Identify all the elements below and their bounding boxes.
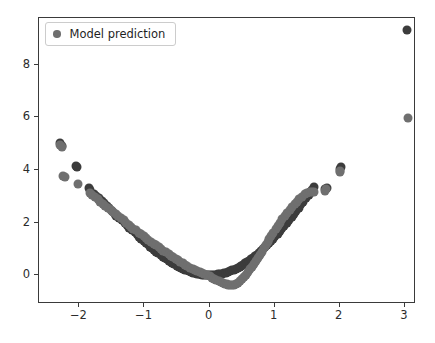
x-tick-label: −2 [70,308,87,322]
data-point [158,252,167,261]
data-point [283,209,292,218]
data-point [241,259,250,268]
data-point [154,243,163,252]
data-point [237,261,246,270]
data-point [322,185,331,194]
data-point [220,279,229,288]
data-point [300,190,309,199]
y-tick-label: 6 [23,109,30,123]
data-point [109,208,118,217]
x-tick-label: 1 [270,308,277,322]
data-point [198,269,207,278]
data-point [169,253,178,262]
data-point [171,254,180,263]
data-point [86,185,95,194]
data-point [404,113,413,122]
data-point [259,244,268,253]
data-point [115,214,124,223]
x-tick-label: 3 [400,308,407,322]
y-tick-label: 8 [23,57,30,71]
data-point [184,267,193,276]
data-point [253,253,262,262]
data-point [141,238,150,247]
data-point [130,228,139,237]
data-point [181,260,190,269]
data-point [152,247,161,256]
data-point [188,268,197,277]
data-point [249,259,258,268]
data-point [122,218,131,227]
data-point [111,210,120,219]
data-point [180,265,189,274]
data-point [261,241,270,250]
data-point [265,234,274,243]
data-point [229,265,238,274]
data-point [122,221,131,230]
data-point [285,216,294,225]
data-point [101,201,110,210]
data-point [216,277,225,286]
data-point [159,246,168,255]
data-point [247,255,256,264]
y-tick-mark [34,64,38,65]
data-point [100,199,109,208]
data-point [222,280,231,289]
y-tick-mark [34,116,38,117]
data-point [309,187,318,196]
data-point [218,278,227,287]
y-tick-mark [34,169,38,170]
data-point [280,221,289,230]
data-point [257,247,266,256]
data-point [139,236,148,245]
data-point [58,142,67,151]
data-point [90,192,99,201]
data-point [119,216,128,225]
data-point [255,250,264,259]
data-point [162,255,171,264]
data-point [55,140,64,149]
data-point [178,259,187,268]
data-point [210,270,219,279]
data-point [135,232,144,241]
data-point [288,202,297,211]
data-point [59,172,68,181]
data-point [129,224,138,233]
data-point [176,263,185,272]
data-point [191,266,200,275]
data-point [231,264,240,273]
chart-legend: Model prediction [45,22,176,46]
data-point [242,270,251,279]
data-point [292,207,301,216]
data-point [262,241,271,250]
data-point [92,192,101,201]
data-point [294,203,303,212]
data-point [182,266,191,275]
data-point [117,216,126,225]
data-point [245,265,254,274]
data-point [320,186,329,195]
data-point [221,268,230,277]
data-point [278,224,287,233]
data-point [304,190,313,199]
data-point [249,253,258,262]
data-point [117,214,126,223]
data-point [403,26,412,35]
data-point [226,281,235,290]
data-point [238,275,247,284]
data-point [176,258,185,267]
data-point [152,241,161,250]
x-tick-label: −1 [135,308,152,322]
data-point [166,258,175,267]
data-point [273,221,282,230]
data-point [146,242,155,251]
data-point [257,247,266,256]
data-point [278,215,287,224]
data-point [267,231,276,240]
data-point [299,197,308,206]
data-point [85,188,94,197]
x-tick-label: 0 [205,308,212,322]
data-point [127,222,136,231]
data-point [194,269,203,278]
data-point [104,203,113,212]
data-point [223,268,232,277]
